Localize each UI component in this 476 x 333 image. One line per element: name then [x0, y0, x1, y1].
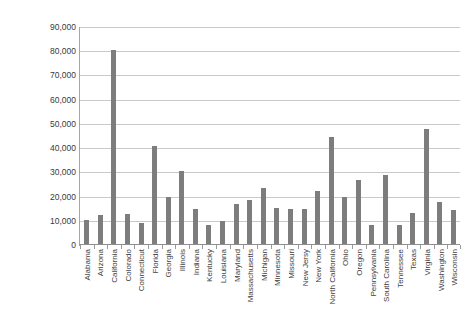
x-axis-category-labels: AlabamaArizonaCaliforniaColoradoConnecti… [79, 249, 461, 333]
y-axis-tick-labels: 90,00080,00070,00060,00050,00040,00030,0… [28, 21, 76, 251]
x-axis-label: North California [327, 249, 336, 305]
y-axis-tick-label: 70,000 [28, 70, 76, 80]
bar-slot [243, 27, 257, 244]
x-axis-label: Alabama [82, 249, 91, 281]
bar-chart-figure: Companies with 20 to 99 employees 90,000… [0, 0, 476, 333]
x-label-slot: Massachusetts [243, 249, 257, 333]
x-axis-label: New York [314, 249, 323, 283]
y-axis-tick-label: 50,000 [28, 119, 76, 129]
y-axis-tick-label: 60,000 [28, 95, 76, 105]
bar [302, 209, 307, 244]
bar-slot [406, 27, 420, 244]
x-label-slot: Illinois [175, 249, 189, 333]
x-label-slot: Washington [434, 249, 448, 333]
bar-slot [297, 27, 311, 244]
bar [166, 197, 171, 244]
bar-slot [229, 27, 243, 244]
bar-slot [447, 27, 461, 244]
x-label-slot: Indiana [189, 249, 203, 333]
bar-slot [284, 27, 298, 244]
bar [139, 223, 144, 244]
bar-slot [324, 27, 338, 244]
y-axis-tick-label: 40,000 [28, 143, 76, 153]
bar [261, 188, 266, 244]
bars-layer [79, 27, 460, 244]
bar-slot [161, 27, 175, 244]
x-label-slot: California [107, 249, 121, 333]
bar [220, 221, 225, 244]
x-axis-label: Virginia [423, 249, 432, 276]
bar-slot [134, 27, 148, 244]
bar [274, 208, 279, 244]
x-axis-label: California [110, 249, 119, 283]
x-axis-label: Tennessee [395, 249, 404, 288]
x-label-slot: Virginia [420, 249, 434, 333]
x-label-slot: Ohio [339, 249, 353, 333]
y-axis-tick-label: 0 [28, 240, 76, 250]
x-axis-label: South Carolina [382, 249, 391, 302]
x-label-slot: New York [311, 249, 325, 333]
bar [247, 200, 252, 244]
x-axis-label: Minnesota [273, 249, 282, 286]
plot-area [79, 27, 460, 245]
bar [329, 137, 334, 244]
x-axis-label: New Jersy [300, 249, 309, 286]
bar-slot [175, 27, 189, 244]
x-label-slot: Maryland [230, 249, 244, 333]
bar [397, 225, 402, 244]
bar-slot [365, 27, 379, 244]
x-label-slot: Arizona [94, 249, 108, 333]
y-axis-tick-label: 20,000 [28, 192, 76, 202]
x-label-slot: Pennsylvania [366, 249, 380, 333]
y-axis-tick-label: 90,000 [28, 22, 76, 32]
bar [424, 129, 429, 244]
x-label-slot: Alabama [80, 249, 94, 333]
x-label-slot: Minnesota [271, 249, 285, 333]
bar-slot [107, 27, 121, 244]
x-axis-label: Michigan [259, 249, 268, 281]
bar [98, 215, 103, 244]
bar [152, 146, 157, 244]
x-label-slot: North California [325, 249, 339, 333]
x-axis-label: Connecticut [137, 249, 146, 291]
bar-slot [94, 27, 108, 244]
x-label-slot: Georgia [162, 249, 176, 333]
x-label-slot: Oregon [352, 249, 366, 333]
x-label-slot: New Jersy [298, 249, 312, 333]
x-axis-label: Wisconsin [450, 249, 459, 285]
x-axis-label: Illinois [178, 249, 187, 271]
bar-slot [121, 27, 135, 244]
bar [111, 50, 116, 244]
bar-slot [216, 27, 230, 244]
x-label-slot: Florida [148, 249, 162, 333]
bar [315, 191, 320, 244]
bar [288, 209, 293, 244]
x-axis-label: Washington [436, 249, 445, 291]
x-label-slot: Colorado [121, 249, 135, 333]
bar [383, 175, 388, 244]
bar [179, 171, 184, 244]
x-label-slot: South Carolina [379, 249, 393, 333]
x-label-slot: Louisiana [216, 249, 230, 333]
x-axis-label: Maryland [232, 249, 241, 282]
bar-slot [202, 27, 216, 244]
bar-slot [352, 27, 366, 244]
bar [437, 202, 442, 244]
bar [356, 180, 361, 244]
x-axis-label: Missouri [286, 249, 295, 279]
x-axis-label: Massachusetts [246, 249, 255, 302]
x-label-slot: Texas [407, 249, 421, 333]
x-axis-label: Kentucky [205, 249, 214, 282]
bar [125, 214, 130, 244]
bar-slot [270, 27, 284, 244]
x-label-slot: Michigan [257, 249, 271, 333]
bar [84, 220, 89, 244]
bar [451, 210, 456, 244]
bar-slot [338, 27, 352, 244]
x-axis-label: Florida [150, 249, 159, 273]
x-axis-label: Ohio [341, 249, 350, 266]
bar-slot [189, 27, 203, 244]
x-axis-label: Arizona [96, 249, 105, 276]
bar [206, 225, 211, 244]
bar-slot [392, 27, 406, 244]
